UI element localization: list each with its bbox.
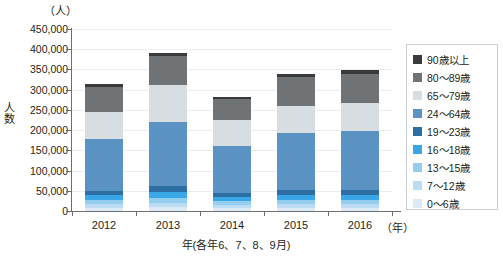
bar-segment [277,133,315,190]
legend-swatch-icon [413,73,422,82]
bar-segment [341,103,379,131]
legend-item-24〜64歳[interactable]: 24〜64歳 [413,104,497,122]
legend-label: 24〜64歳 [427,106,470,121]
bar-segment [277,77,315,106]
gridline [72,29,392,30]
legend-swatch-icon [413,145,422,154]
bar-2013[interactable] [149,53,187,211]
legend-item-65〜79歳[interactable]: 65〜79歳 [413,86,497,104]
chart-container: （人） 人数 450,000400,000350,000300,000250,0… [0,0,503,261]
y-axis-tick-label: 350,000 [30,63,68,75]
plot-area [72,29,392,211]
y-axis-ticks: 450,000400,000350,000300,000250,000200,0… [0,0,68,261]
bar-segment [149,56,187,85]
x-axis-title: 年(各年6、7、8、9月) [182,236,291,252]
legend-item-7〜12歳[interactable]: 7〜12歳 [413,176,497,194]
x-axis-line [71,211,401,212]
bar-segment [85,87,123,112]
legend-label: 65〜79歳 [427,88,470,103]
legend-item-90歳以上[interactable]: 90歳以上 [413,50,497,68]
legend-label: 16〜18歳 [427,142,470,157]
y-axis-tick-label: 100,000 [30,165,68,177]
x-axis-tick-mark [392,211,393,216]
bar-segment [85,112,123,139]
legend-swatch-icon [413,127,422,136]
legend-item-19〜23歳[interactable]: 19〜23歳 [413,122,497,140]
x-axis-tick-mark [264,211,265,216]
bar-segment [277,208,315,211]
x-axis-tick-mark [136,211,137,216]
x-axis-tick-label-2013: 2013 [156,219,180,231]
legend-swatch-icon [413,109,422,118]
bar-segment [213,99,251,121]
x-axis-tick-label-2012: 2012 [92,219,116,231]
bar-2012[interactable] [85,84,123,211]
bar-segment [149,207,187,211]
x-axis-tick-label-2014: 2014 [220,219,244,231]
y-axis-tick-label: 250,000 [30,104,68,116]
legend-label: 90歳以上 [427,52,469,67]
legend-item-0〜6歳[interactable]: 0〜6歳 [413,194,497,212]
y-axis-tick-label: 50,000 [36,185,68,197]
chart-legend: 90歳以上80〜89歳65〜79歳24〜64歳19〜23歳16〜18歳13〜15… [406,44,498,210]
legend-swatch-icon [413,91,422,100]
legend-swatch-icon [413,199,422,208]
gridline [72,49,392,50]
bar-segment [341,208,379,211]
y-axis-tick-label: 200,000 [30,124,68,136]
bar-2016[interactable] [341,70,379,211]
bar-segment [149,85,187,122]
legend-label: 7〜12歳 [427,178,465,193]
bar-segment [213,208,251,211]
bar-segment [277,106,315,133]
x-axis-tick-mark [200,211,201,216]
x-axis-tick-label-2016: 2016 [348,219,372,231]
x-axis-tick-label-2015: 2015 [284,219,308,231]
legend-item-13〜15歳[interactable]: 13〜15歳 [413,158,497,176]
y-axis-tick-label: 150,000 [30,144,68,156]
y-axis-tick-label: 300,000 [30,84,68,96]
legend-swatch-icon [413,181,422,190]
legend-label: 80〜89歳 [427,70,470,85]
legend-swatch-icon [413,55,422,64]
bar-segment [149,122,187,186]
legend-item-16〜18歳[interactable]: 16〜18歳 [413,140,497,158]
y-axis-tick-label: 450,000 [30,23,68,35]
bar-segment [213,146,251,193]
bar-segment [85,208,123,211]
legend-item-80〜89歳[interactable]: 80〜89歳 [413,68,497,86]
x-axis-tick-mark [72,211,73,216]
x-axis-tick-mark [328,211,329,216]
x-axis-unit-label: （年） [381,219,414,235]
bar-2014[interactable] [213,97,251,211]
bar-segment [341,74,379,103]
bar-segment [85,139,123,191]
legend-swatch-icon [413,163,422,172]
bar-segment [213,120,251,145]
bar-2015[interactable] [277,74,315,211]
y-axis-tick-label: 400,000 [30,43,68,55]
legend-label: 19〜23歳 [427,124,470,139]
legend-label: 13〜15歳 [427,160,470,175]
legend-label: 0〜6歳 [427,196,459,211]
bar-segment [341,131,379,190]
